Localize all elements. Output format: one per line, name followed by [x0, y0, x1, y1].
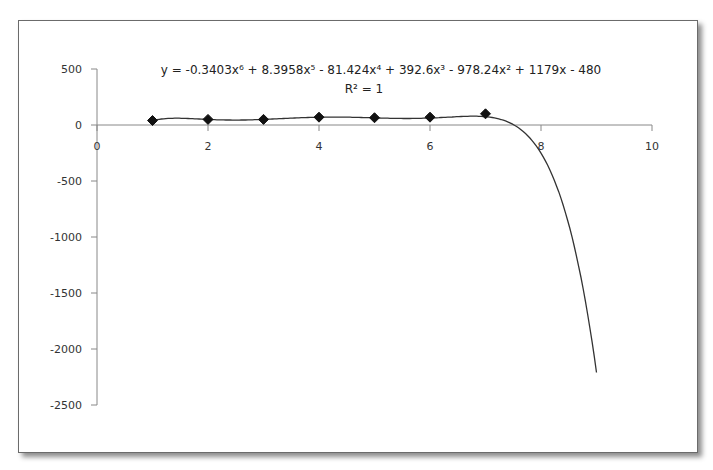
data-point — [314, 112, 324, 122]
x-tick-label: 10 — [645, 140, 659, 153]
trendline-group — [153, 116, 597, 372]
x-tick-label: 6 — [427, 140, 434, 153]
r-squared-label: R² = 1 — [345, 82, 383, 96]
y-tick-label: -2500 — [50, 399, 82, 412]
y-tick-label: 500 — [61, 63, 82, 76]
y-tick-label: -2000 — [50, 343, 82, 356]
ticks: 5000-500-1000-1500-2000-25000246810 — [50, 63, 659, 412]
x-tick-label: 4 — [316, 140, 323, 153]
x-tick-label: 2 — [205, 140, 212, 153]
x-tick-label: 0 — [94, 140, 101, 153]
y-tick-label: -500 — [57, 175, 82, 188]
data-point — [203, 114, 213, 124]
data-point — [259, 114, 269, 124]
x-tick-label: 8 — [538, 140, 545, 153]
y-tick-label: -1500 — [50, 287, 82, 300]
trendline-equation: y = -0.3403x⁶ + 8.3958x⁵ - 81.424x⁴ + 39… — [161, 63, 601, 77]
chart-plot: 5000-500-1000-1500-2000-25000246810 y = … — [0, 0, 713, 470]
data-point — [425, 112, 435, 122]
y-tick-label: 0 — [75, 119, 82, 132]
data-point — [370, 113, 380, 123]
data-point — [148, 116, 158, 126]
y-tick-label: -1000 — [50, 231, 82, 244]
trendline — [153, 116, 597, 372]
